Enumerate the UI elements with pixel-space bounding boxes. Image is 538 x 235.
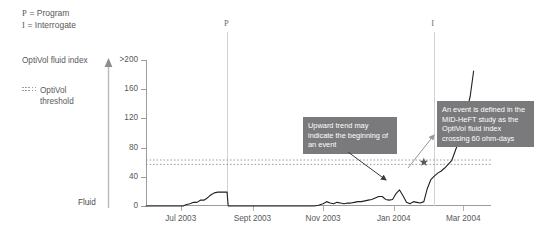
x-axis-tick-label: Nov 2003 — [288, 214, 358, 223]
threshold-lines — [146, 160, 491, 164]
threshold-legend-label-2: threshold — [40, 96, 100, 107]
y-axis-tick-label: 0 — [98, 201, 138, 210]
interrogate-marker-label: I — [431, 18, 434, 28]
threshold-legend-label-1: OptiVol — [40, 86, 66, 95]
marker-key-legend: P = Program I = Interrogate — [22, 8, 76, 31]
fluid-arrow-label: Fluid — [78, 198, 96, 207]
annotation-upward-trend: Upward trend may indicate the beginning … — [303, 117, 397, 154]
y-axis-tick-label: 80 — [98, 143, 138, 152]
threshold-line-icon — [22, 87, 36, 91]
x-axis-tick-label: Jul 2003 — [146, 214, 216, 223]
y-axis-tick — [141, 206, 146, 207]
y-axis-tick-label: 40 — [98, 172, 138, 181]
program-symbol: P — [22, 8, 27, 18]
key-legend-row-program: P = Program — [22, 8, 76, 20]
x-axis-tick — [463, 206, 464, 211]
threshold-legend: OptiVol threshold — [22, 85, 100, 107]
y-axis-title: OptiVol fluid index — [22, 56, 88, 65]
annotation-event-definition-text: An event is defined in the MID-HeFT stud… — [442, 105, 525, 143]
y-axis-tick-label: >200 — [98, 55, 138, 64]
y-axis-tick-label: 120 — [98, 113, 138, 122]
y-axis-tick-label: 160 — [98, 84, 138, 93]
x-axis-tick — [394, 206, 395, 211]
fluid-direction-arrow — [104, 58, 113, 208]
annotation-event-definition: An event is defined in the MID-HeFT stud… — [437, 101, 534, 147]
x-axis-tick-label: Sept 2003 — [218, 214, 288, 223]
interrogate-description: = Interrogate — [28, 20, 76, 30]
program-description: = Program — [29, 8, 69, 18]
program-marker-label: P — [224, 18, 229, 28]
x-axis-tick — [323, 206, 324, 211]
x-axis-tick — [253, 206, 254, 211]
x-axis-tick — [181, 206, 182, 211]
chart-root: P = Program I = Interrogate OptiVol flui… — [0, 0, 538, 235]
annotation-upward-trend-text: Upward trend may indicate the beginning … — [308, 121, 388, 149]
x-axis-tick-label: Jan 2004 — [359, 214, 429, 223]
x-axis-tick-label: Mar 2004 — [428, 214, 498, 223]
key-legend-row-interrogate: I = Interrogate — [22, 20, 76, 32]
interrogate-symbol: I — [22, 20, 25, 30]
